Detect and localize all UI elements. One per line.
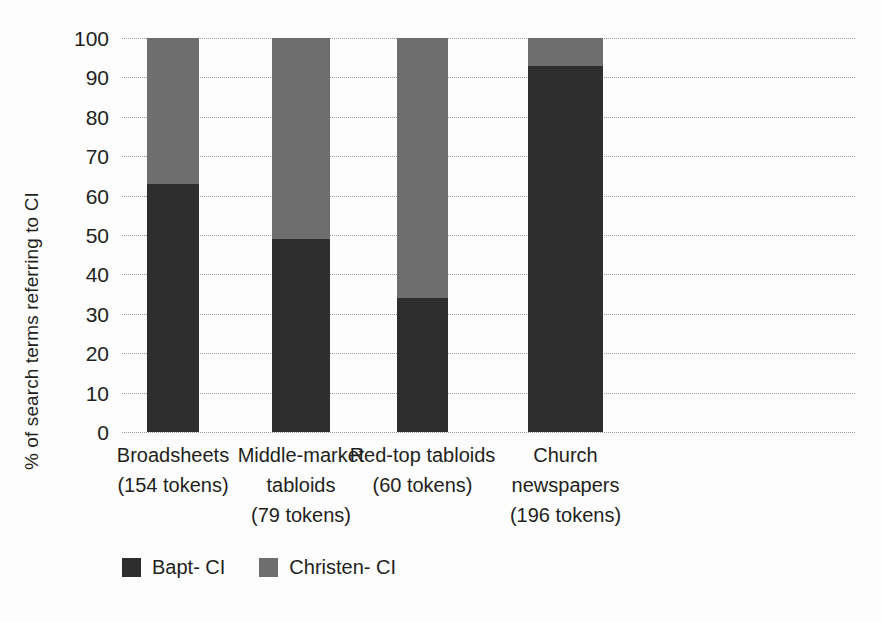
y-tick-label: 80 — [86, 105, 109, 129]
y-axis-title: % of search terms referring to CI — [12, 30, 52, 470]
legend-item[interactable]: Bapt- CI — [122, 556, 225, 579]
gridline-0: 0 — [122, 432, 855, 433]
bar-segment-bapt-ci — [272, 239, 330, 432]
y-tick-label: 60 — [86, 184, 109, 208]
y-tick-label: 50 — [86, 224, 109, 248]
gridline-10: 10 — [122, 393, 855, 394]
legend-swatch-icon — [122, 558, 141, 577]
legend-label: Christen- CI — [289, 556, 396, 579]
category-label-line: newspapers — [461, 470, 671, 500]
gridline-20: 20 — [122, 353, 855, 354]
gridline-90: 90 — [122, 77, 855, 78]
y-tick-label: 100 — [74, 27, 109, 51]
y-tick-label: 40 — [86, 263, 109, 287]
bar-segment-christen-ci — [272, 38, 330, 239]
legend-swatch-icon — [259, 558, 278, 577]
gridline-80: 80 — [122, 117, 855, 118]
category-label-line: (196 tokens) — [461, 500, 671, 530]
gridline-40: 40 — [122, 274, 855, 275]
bar-group — [147, 38, 199, 432]
plot-area: 0102030405060708090100 — [122, 38, 855, 432]
chart-legend: Bapt- CIChristen- CI — [122, 556, 396, 579]
y-tick-label: 10 — [86, 381, 109, 405]
y-tick-label: 90 — [86, 66, 109, 90]
bar-segment-bapt-ci — [528, 66, 603, 432]
category-label-line: Church — [461, 440, 671, 470]
bar-group — [272, 38, 330, 432]
gridline-70: 70 — [122, 156, 855, 157]
bar-segment-christen-ci — [528, 38, 603, 66]
gridline-50: 50 — [122, 235, 855, 236]
bar-segment-bapt-ci — [397, 298, 448, 432]
bar-segment-christen-ci — [147, 38, 199, 184]
gridline-100: 100 — [122, 38, 855, 39]
stacked-bar-chart: % of search terms referring to CI 010203… — [0, 0, 881, 622]
bar-segment-christen-ci — [397, 38, 448, 298]
gridline-60: 60 — [122, 196, 855, 197]
bar-group — [528, 38, 603, 432]
legend-item[interactable]: Christen- CI — [259, 556, 396, 579]
y-tick-label: 20 — [86, 342, 109, 366]
bar-segment-bapt-ci — [147, 184, 199, 432]
y-tick-label: 70 — [86, 145, 109, 169]
category-label-line: (79 tokens) — [196, 500, 406, 530]
x-axis-category-label: Churchnewspapers(196 tokens) — [461, 440, 671, 530]
gridline-30: 30 — [122, 314, 855, 315]
legend-label: Bapt- CI — [152, 556, 225, 579]
y-tick-label: 30 — [86, 302, 109, 326]
x-axis-category-labels: Broadsheets(154 tokens)Middle-markettabl… — [122, 440, 855, 550]
bar-group — [397, 38, 448, 432]
